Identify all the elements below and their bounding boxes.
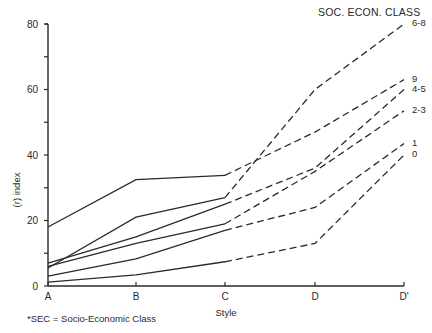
series-solid-6-8 xyxy=(48,198,225,268)
line-chart: 020406080ABCDD'Style(r) index 6-894-52-3… xyxy=(0,0,432,333)
series-solid-0 xyxy=(48,262,225,282)
y-tick-label: 0 xyxy=(32,281,38,292)
series-dashed-4-5 xyxy=(225,90,404,205)
y-tick-label: 80 xyxy=(27,19,39,30)
x-tick-label: A xyxy=(45,291,52,302)
x-tick-label: D xyxy=(311,291,318,302)
series-lines xyxy=(48,24,404,282)
series-label: 6-8 xyxy=(412,17,426,28)
series-dashed-2-3 xyxy=(225,111,404,224)
series-label: 4-5 xyxy=(412,83,426,94)
series-dashed-9 xyxy=(225,80,404,176)
axes: 020406080ABCDD'Style(r) index xyxy=(11,19,409,319)
series-solid-2-3 xyxy=(48,224,225,267)
series-solid-9 xyxy=(48,175,225,227)
x-tick-label: D' xyxy=(399,291,408,302)
x-axis-title: Style xyxy=(215,307,236,318)
series-label: 0 xyxy=(412,148,417,159)
y-tick-label: 20 xyxy=(27,215,39,226)
series-labels: 6-894-52-310 xyxy=(412,17,426,159)
series-label: 1 xyxy=(412,137,417,148)
series-dashed-1 xyxy=(225,144,404,231)
x-tick-label: B xyxy=(133,291,140,302)
y-tick-label: 40 xyxy=(27,150,39,161)
series-label: 2-3 xyxy=(412,104,426,115)
footnote: *SEC = Socio-Economic Class xyxy=(27,313,156,324)
y-axis-title: (r) index xyxy=(11,172,22,207)
x-tick-label: C xyxy=(221,291,228,302)
y-tick-label: 60 xyxy=(27,84,39,95)
